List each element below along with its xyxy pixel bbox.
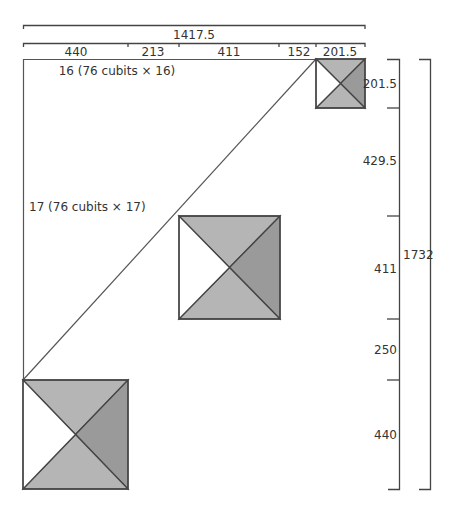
right-seg-1: 201.5 — [363, 77, 397, 91]
top-edge-annotation: 16 (76 cubits × 16) — [59, 64, 176, 78]
right-seg-4: 250 — [374, 343, 397, 357]
diagonal-annotation: 17 (76 cubits × 17) — [29, 200, 146, 214]
top-seg-4: 152 — [288, 45, 311, 59]
middle-pyramid — [179, 216, 280, 319]
top-seg-2: 213 — [142, 45, 165, 59]
top-seg-3: 411 — [218, 45, 241, 59]
right-seg-2: 429.5 — [363, 154, 397, 168]
right-total-label: 1732 — [403, 248, 434, 262]
pyramid-layout-diagram: 1417.5 440 213 411 152 201.5 16 (76 cubi… — [0, 0, 454, 513]
right-seg-5: 440 — [374, 428, 397, 442]
small-pyramid — [316, 59, 365, 108]
right-total-bracket — [419, 60, 431, 490]
right-seg-3: 411 — [374, 262, 397, 276]
large-pyramid — [23, 380, 128, 489]
top-total-label: 1417.5 — [173, 28, 215, 42]
top-seg-1: 440 — [65, 45, 88, 59]
top-seg-5: 201.5 — [323, 45, 357, 59]
